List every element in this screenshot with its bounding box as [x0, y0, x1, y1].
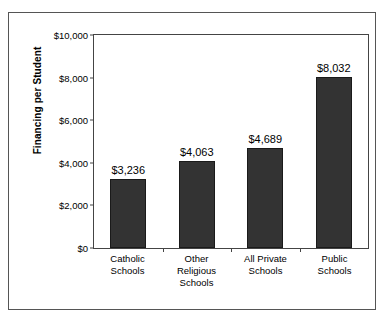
y-tick-label: $10,000 — [54, 30, 88, 41]
bar-rect[interactable] — [247, 148, 283, 248]
bar-group[interactable]: $4,063 — [163, 35, 232, 248]
bar-rect[interactable] — [179, 161, 215, 248]
x-category-label-line: Schools — [231, 265, 300, 277]
x-tick-mark — [231, 248, 232, 252]
x-category-label-line: Public — [300, 253, 369, 265]
bar-value-label: $4,063 — [180, 146, 214, 158]
x-category-label-line: Schools — [300, 265, 369, 277]
x-category-label-line: Catholic — [93, 253, 162, 265]
bar-group[interactable]: $4,689 — [231, 35, 300, 248]
x-category-label-line: Other — [162, 253, 231, 265]
chart-figure: Financing per Student $0$2,000$4,000$6,0… — [8, 12, 376, 310]
y-tick-label: $0 — [77, 243, 88, 254]
x-tick-mark — [163, 248, 164, 252]
x-category-label-line: Religious — [162, 265, 231, 277]
x-category-label-line: Schools — [162, 277, 231, 289]
x-category-label: All PrivateSchools — [231, 253, 300, 289]
x-tick-mark — [300, 248, 301, 252]
y-tick-label: $6,000 — [59, 115, 88, 126]
x-category-label: OtherReligiousSchools — [162, 253, 231, 289]
bar-series: $3,236$4,063$4,689$8,032 — [94, 35, 368, 248]
x-category-label-line: All Private — [231, 253, 300, 265]
x-category-label: CatholicSchools — [93, 253, 162, 289]
x-axis-category-labels: CatholicSchoolsOtherReligiousSchoolsAll … — [93, 253, 369, 289]
bar-group[interactable]: $3,236 — [94, 35, 163, 248]
x-category-label: PublicSchools — [300, 253, 369, 289]
y-tick-label: $8,000 — [59, 72, 88, 83]
bar-rect[interactable] — [316, 77, 352, 248]
y-axis-title: Financing per Student — [32, 21, 43, 181]
x-category-label-line: Schools — [93, 265, 162, 277]
bar-value-label: $3,236 — [111, 164, 145, 176]
plot-area: $0$2,000$4,000$6,000$8,000$10,000 $3,236… — [93, 34, 369, 249]
y-tick-label: $2,000 — [59, 200, 88, 211]
bar-group[interactable]: $8,032 — [300, 35, 369, 248]
y-tick-label: $4,000 — [59, 157, 88, 168]
bar-value-label: $4,689 — [248, 133, 282, 145]
bar-value-label: $8,032 — [317, 62, 351, 74]
bar-rect[interactable] — [110, 179, 146, 248]
